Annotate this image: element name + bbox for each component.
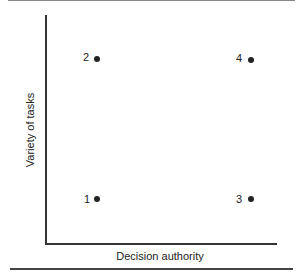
x-axis-label: Decision authority <box>116 250 203 262</box>
y-axis <box>45 15 47 245</box>
data-point-1 <box>94 196 100 202</box>
data-point-2 <box>94 56 100 62</box>
x-axis <box>45 243 277 245</box>
point-label-4: 4 <box>236 52 242 64</box>
data-point-3 <box>248 196 254 202</box>
point-label-1: 1 <box>84 193 90 205</box>
data-point-4 <box>248 57 254 63</box>
point-label-2: 2 <box>83 51 89 63</box>
bottom-rule <box>10 268 293 270</box>
point-label-3: 3 <box>236 193 242 205</box>
y-axis-label: Variety of tasks <box>24 93 36 167</box>
top-rule <box>8 0 295 1</box>
